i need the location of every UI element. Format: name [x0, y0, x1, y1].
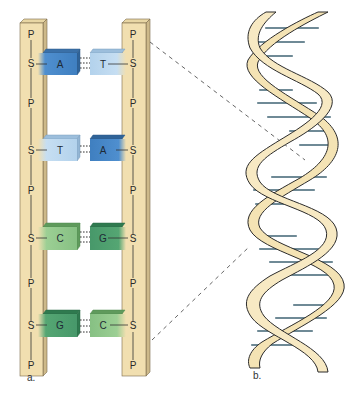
- sugar-label: S: [130, 145, 137, 156]
- sugar-label: S: [28, 233, 35, 244]
- sugar-label: S: [28, 145, 35, 156]
- base-label: C: [56, 233, 63, 244]
- base-block-right: C: [90, 310, 126, 337]
- base-block-left: C: [38, 223, 80, 250]
- base-pair-4: G C: [38, 310, 126, 337]
- panel-b-double-helix: [246, 12, 344, 372]
- sugar-label: S: [130, 233, 137, 244]
- base-block-right: G: [90, 223, 126, 250]
- base-block-right: A: [90, 135, 126, 161]
- sugar-label: S: [130, 320, 137, 331]
- phosphate-label: P: [28, 278, 35, 289]
- base-label: G: [99, 233, 107, 244]
- hydrogen-bonds: [80, 232, 90, 242]
- base-block-left: T: [38, 135, 80, 161]
- base-label: C: [99, 320, 106, 331]
- sugar-label: S: [130, 58, 137, 69]
- base-block-left: A: [38, 49, 80, 75]
- panel-b-label: b.: [253, 370, 261, 381]
- phosphate-label: P: [130, 185, 137, 196]
- hydrogen-bonds: [80, 320, 90, 332]
- phosphate-label: P: [28, 98, 35, 109]
- base-label: A: [57, 59, 64, 70]
- base-label: G: [56, 320, 64, 331]
- phosphate-label: P: [28, 360, 35, 371]
- sugar-label: S: [28, 320, 35, 331]
- panel-a-label: a.: [27, 372, 35, 383]
- base-pair-3: C G: [38, 223, 126, 250]
- base-label: T: [57, 145, 63, 156]
- phosphate-label: P: [130, 278, 137, 289]
- phosphate-label: P: [130, 360, 137, 371]
- sugar-label: S: [28, 58, 35, 69]
- base-pair-2: T A: [38, 135, 126, 161]
- hydrogen-bonds: [80, 146, 90, 152]
- base-block-left: G: [38, 310, 80, 337]
- base-block-right: T: [90, 49, 126, 75]
- dna-structure-diagram: A T T A: [0, 0, 351, 397]
- phosphate-label: P: [130, 98, 137, 109]
- base-label: T: [100, 59, 106, 70]
- hydrogen-bonds: [80, 58, 90, 68]
- base-pair-1: A T: [38, 49, 126, 75]
- panel-a-ladder: A T T A: [20, 19, 150, 376]
- phosphate-label: P: [28, 29, 35, 40]
- phosphate-label: P: [28, 185, 35, 196]
- phosphate-label: P: [130, 29, 137, 40]
- base-label: A: [100, 145, 107, 156]
